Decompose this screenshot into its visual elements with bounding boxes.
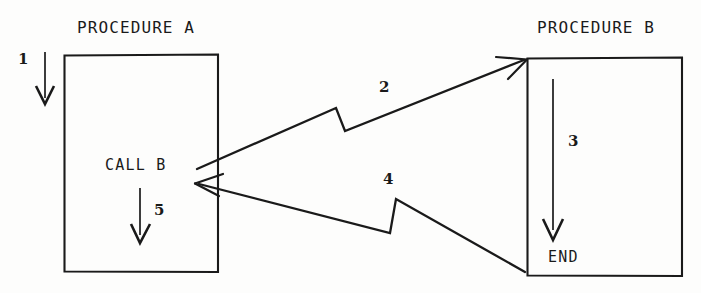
step-label-4: 4 — [383, 172, 393, 187]
step-label-2: 2 — [379, 80, 389, 95]
diagram-vector-layer — [0, 0, 701, 293]
procedure-a-title: PROCEDURE A — [77, 20, 195, 36]
return-arrow-4 — [195, 174, 525, 272]
step-label-3: 3 — [568, 134, 578, 149]
internal-arrow-3 — [543, 79, 563, 240]
entry-arrow-1 — [36, 52, 54, 104]
step-label-5: 5 — [154, 203, 164, 218]
procedure-b-box — [528, 58, 683, 277]
procedure-b-title: PROCEDURE B — [537, 20, 655, 36]
diagram-canvas: PROCEDURE A PROCEDURE B CALL B END 1 2 3… — [0, 0, 701, 293]
end-statement: END — [548, 250, 579, 265]
call-arrow-2 — [197, 57, 527, 169]
internal-arrow-5 — [131, 188, 150, 243]
call-b-statement: CALL B — [105, 158, 166, 173]
step-label-1: 1 — [18, 52, 28, 67]
